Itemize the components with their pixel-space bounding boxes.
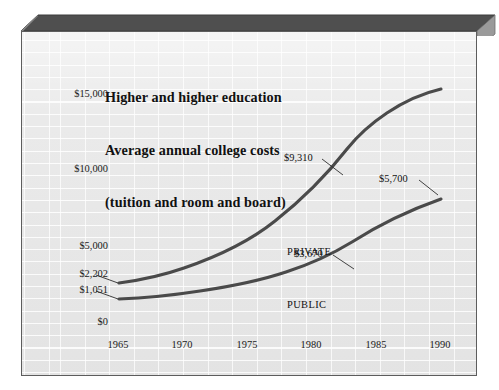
xtick-label-1980: 1980 bbox=[289, 339, 333, 350]
ytick-label-0: $0 bbox=[52, 316, 108, 327]
ytick-label-1051: $1,051 bbox=[52, 284, 108, 295]
series-label-public: PUBLIC bbox=[287, 299, 326, 310]
title-line-3: (tuition and room and board) bbox=[105, 194, 286, 212]
ytick-label-10000: $10,000 bbox=[52, 163, 108, 174]
annotation-5700: $5,700 bbox=[379, 173, 408, 184]
leader-line-5700 bbox=[419, 180, 438, 195]
ytick-label-2202: $2,202 bbox=[52, 268, 108, 279]
title-line-1: Higher and higher education bbox=[105, 89, 286, 107]
chart-figure: Higher and higher education Average annu… bbox=[0, 0, 499, 390]
xtick-label-1975: 1975 bbox=[225, 339, 269, 350]
xtick-label-1985: 1985 bbox=[354, 339, 398, 350]
xtick-label-1970: 1970 bbox=[160, 339, 204, 350]
title-line-2: Average annual college costs bbox=[105, 142, 286, 160]
ytick-label-5000: $5,000 bbox=[52, 240, 108, 251]
chart-title: Higher and higher education Average annu… bbox=[105, 54, 286, 247]
annotation-3670: $3,670 bbox=[294, 248, 323, 259]
leader-line-3670 bbox=[333, 255, 354, 269]
ytick-label-15000: $15,000 bbox=[52, 88, 108, 99]
annotation-9310: $9,310 bbox=[284, 152, 313, 163]
xtick-label-1965: 1965 bbox=[96, 339, 140, 350]
xtick-label-1990: 1990 bbox=[418, 339, 462, 350]
